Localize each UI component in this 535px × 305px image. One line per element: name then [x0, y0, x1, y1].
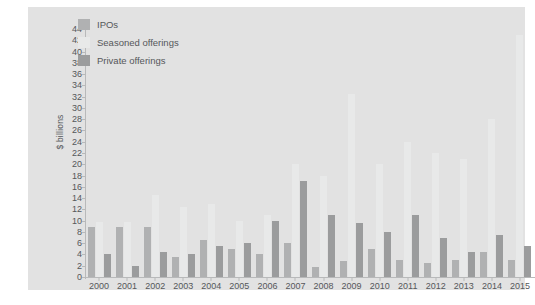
- bar: [488, 119, 495, 277]
- bar: [356, 223, 363, 277]
- y-tick-label: 10: [72, 216, 82, 225]
- bar: [404, 142, 411, 277]
- x-tick-label: 2008: [310, 280, 338, 292]
- y-tick-mark: [82, 277, 85, 278]
- bar-groups: [85, 29, 534, 277]
- bar: [116, 227, 123, 277]
- bar: [236, 221, 243, 277]
- x-tick-label: 2000: [85, 280, 113, 292]
- bar: [368, 249, 375, 277]
- bar: [480, 252, 487, 277]
- x-tick-label: 2004: [197, 280, 225, 292]
- y-axis-title: $ billions: [55, 92, 65, 172]
- y-tick-label: 20: [72, 160, 82, 169]
- x-tick-label: 2002: [141, 280, 169, 292]
- bar: [132, 266, 139, 277]
- bar: [508, 260, 515, 277]
- x-axis-labels: 2000200120022003200420052006200720082009…: [85, 280, 534, 292]
- bar: [272, 221, 279, 277]
- bar: [244, 243, 251, 277]
- bar: [208, 204, 215, 277]
- bar-group: [422, 29, 450, 277]
- bar-group: [366, 29, 394, 277]
- legend-label: IPOs: [97, 19, 118, 30]
- bar: [188, 254, 195, 277]
- bar-group: [281, 29, 309, 277]
- bar: [124, 222, 131, 277]
- bar-group: [85, 29, 113, 277]
- bar-group: [197, 29, 225, 277]
- bar: [440, 238, 447, 277]
- bar-group: [478, 29, 506, 277]
- bar: [300, 181, 307, 277]
- bar: [172, 257, 179, 277]
- legend-label: Seasoned offerings: [97, 37, 179, 48]
- bar: [452, 260, 459, 277]
- x-tick-label: 2015: [506, 280, 534, 292]
- bar-group: [506, 29, 534, 277]
- legend-swatch-icon: [78, 55, 90, 66]
- y-tick-label: 26: [72, 126, 82, 135]
- bar: [424, 263, 431, 277]
- bar: [384, 232, 391, 277]
- y-tick-label: 22: [72, 149, 82, 158]
- y-tick-label: 24: [72, 137, 82, 146]
- bar-group: [113, 29, 141, 277]
- y-tick-label: 14: [72, 194, 82, 203]
- bar: [284, 243, 291, 277]
- x-tick-label: 2010: [366, 280, 394, 292]
- y-tick-label: 32: [72, 92, 82, 101]
- x-tick-label: 2013: [450, 280, 478, 292]
- y-tick-label: 30: [72, 103, 82, 112]
- bar: [432, 153, 439, 277]
- bar: [376, 164, 383, 277]
- bar: [144, 227, 151, 277]
- y-tick-label: 28: [72, 115, 82, 124]
- bar: [228, 249, 235, 277]
- bar: [328, 215, 335, 277]
- bar: [320, 176, 327, 277]
- x-tick-label: 2012: [422, 280, 450, 292]
- bar-group: [338, 29, 366, 277]
- x-tick-label: 2003: [169, 280, 197, 292]
- chart-figure: $ billions 02468101214161820222426283032…: [28, 7, 525, 290]
- bar: [516, 35, 523, 277]
- x-axis-line: [85, 277, 535, 278]
- legend-item[interactable]: IPOs: [78, 18, 179, 30]
- legend-swatch-icon: [78, 19, 90, 30]
- bar: [256, 254, 263, 277]
- bar: [180, 207, 187, 277]
- bar: [96, 222, 103, 277]
- bar: [152, 195, 159, 277]
- bar-group: [169, 29, 197, 277]
- legend-item[interactable]: Private offerings: [78, 54, 179, 66]
- bar: [104, 254, 111, 277]
- bar: [264, 215, 271, 277]
- bar: [312, 267, 319, 277]
- bar-group: [450, 29, 478, 277]
- bar: [496, 235, 503, 277]
- bar: [412, 215, 419, 277]
- legend-label: Private offerings: [97, 55, 165, 66]
- bar: [340, 261, 347, 277]
- bar-group: [394, 29, 422, 277]
- bar: [160, 252, 167, 277]
- x-tick-label: 2006: [253, 280, 281, 292]
- x-tick-label: 2005: [225, 280, 253, 292]
- y-tick-label: 36: [72, 70, 82, 79]
- bar: [88, 227, 95, 277]
- bar-group: [310, 29, 338, 277]
- bar: [460, 159, 467, 277]
- bar-group: [141, 29, 169, 277]
- bar: [200, 240, 207, 277]
- x-tick-label: 2001: [113, 280, 141, 292]
- bar-group: [253, 29, 281, 277]
- bar-group: [225, 29, 253, 277]
- bar: [468, 252, 475, 277]
- bar: [292, 164, 299, 277]
- bar: [524, 246, 531, 277]
- x-tick-label: 2009: [338, 280, 366, 292]
- y-tick-label: 16: [72, 182, 82, 191]
- legend-item[interactable]: Seasoned offerings: [78, 36, 179, 48]
